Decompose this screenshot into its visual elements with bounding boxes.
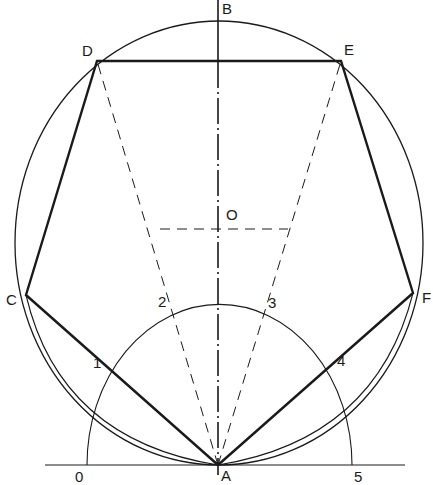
label-E: E: [344, 42, 354, 57]
dashed-line-AE: [218, 61, 341, 465]
label-D: D: [82, 43, 93, 58]
chord-arc-CAF: [26, 293, 413, 465]
label-4: 4: [337, 353, 345, 368]
label-3: 3: [268, 295, 276, 310]
label-O: O: [226, 207, 238, 222]
label-0: 0: [75, 469, 83, 484]
label-A: A: [221, 468, 231, 483]
label-F: F: [422, 290, 431, 305]
circumscribed-circle: [15, 21, 423, 465]
label-C: C: [6, 292, 17, 307]
label-5: 5: [354, 469, 362, 484]
label-2: 2: [158, 294, 166, 309]
dashed-line-AD: [97, 61, 218, 465]
label-B: B: [222, 1, 232, 16]
pentagon-outline: [26, 61, 413, 465]
label-1: 1: [93, 355, 101, 370]
